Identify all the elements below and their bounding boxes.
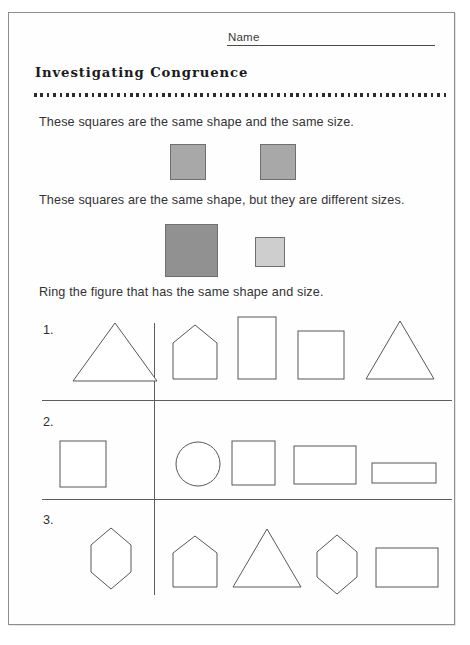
worksheet-page: Name Investigating Congruence These squa… bbox=[8, 12, 455, 625]
problem-1-choice-square[interactable] bbox=[298, 331, 344, 379]
demo-square-large-dark bbox=[165, 224, 218, 277]
problem-1-choice-pentagon-house[interactable] bbox=[173, 325, 217, 379]
name-field[interactable]: Name bbox=[227, 31, 435, 46]
problem-1-choice-triangle[interactable] bbox=[366, 321, 434, 379]
statement-different-size: These squares are the same shape, but th… bbox=[39, 193, 405, 207]
problem-2-choice-flat-rectangle[interactable] bbox=[372, 463, 436, 483]
instruction-ring-figure: Ring the figure that has the same shape … bbox=[39, 285, 324, 299]
demo-square-same-right bbox=[260, 144, 296, 180]
dotted-divider bbox=[34, 93, 449, 97]
problem-2-reference-square[interactable] bbox=[60, 441, 106, 487]
problem-1-reference-triangle[interactable] bbox=[73, 323, 157, 381]
row-divider-1 bbox=[42, 400, 452, 401]
problem-1-choice-tall-rectangle[interactable] bbox=[238, 317, 276, 379]
problem-2-choice-square[interactable] bbox=[232, 441, 275, 485]
demo-square-small-light bbox=[255, 237, 285, 267]
problem-3-reference-hexagon[interactable] bbox=[91, 528, 131, 589]
problem-3-choice-pentagon-house[interactable] bbox=[173, 536, 217, 587]
row-divider-2 bbox=[42, 499, 452, 500]
statement-same-size: These squares are the same shape and the… bbox=[39, 115, 354, 129]
demo-square-same-left bbox=[170, 144, 206, 180]
problem-2-choice-circle[interactable] bbox=[176, 442, 220, 486]
name-write-line[interactable] bbox=[227, 45, 435, 46]
problem-2-choice-wide-rectangle[interactable] bbox=[294, 446, 356, 484]
name-label: Name bbox=[227, 31, 435, 43]
problem-3-shapes bbox=[42, 505, 454, 597]
problem-3-choice-hexagon[interactable] bbox=[317, 535, 357, 594]
problem-3-choice-triangle[interactable] bbox=[233, 529, 301, 587]
problem-3-choice-rectangle[interactable] bbox=[376, 548, 438, 587]
page-title: Investigating Congruence bbox=[35, 65, 248, 80]
problem-2-shapes bbox=[42, 405, 454, 497]
problem-1-shapes bbox=[42, 313, 454, 399]
